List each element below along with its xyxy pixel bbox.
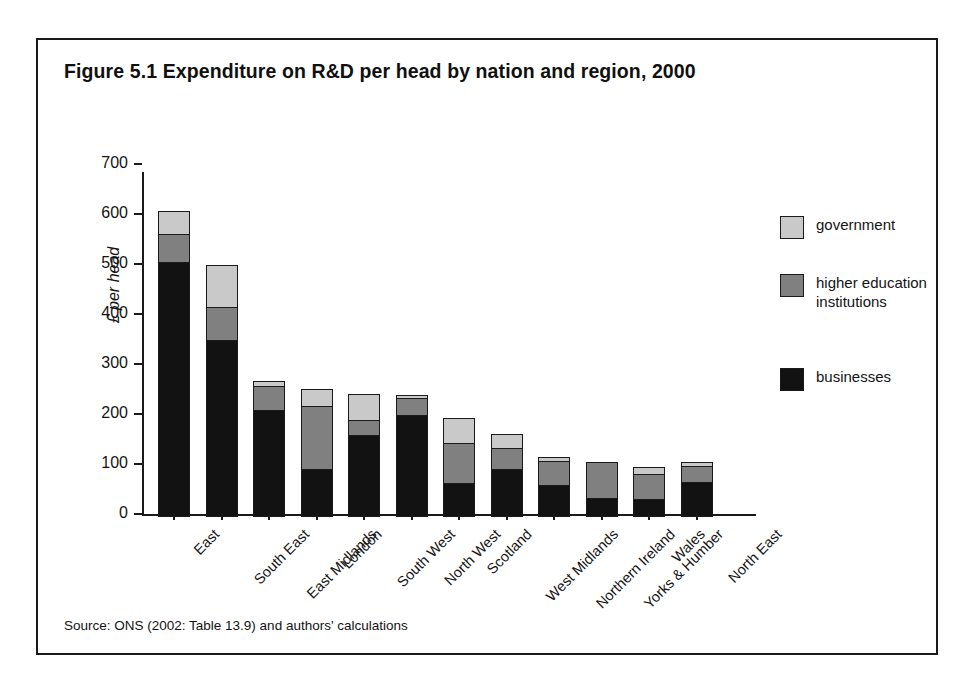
bar-segment-hei[interactable] (633, 474, 665, 500)
legend-swatch-icon (780, 216, 804, 239)
x-axis-label-north-east: North East (725, 526, 785, 586)
y-tick-mark (134, 163, 142, 165)
bar-stack[interactable] (586, 462, 618, 517)
y-tick-mark (134, 513, 142, 515)
bar-segment-hei[interactable] (538, 461, 570, 486)
bar-segment-hei[interactable] (586, 462, 618, 500)
bar-segment-gov[interactable] (158, 211, 190, 235)
bar-segment-hei[interactable] (396, 398, 428, 416)
y-tick-mark (134, 313, 142, 315)
figure-title: Figure 5.1 Expenditure on R&D per head b… (64, 60, 904, 83)
x-tick-mark (506, 514, 508, 520)
bar-segment-hei[interactable] (348, 420, 380, 436)
y-tick-mark (134, 263, 142, 265)
x-tick-mark (173, 514, 175, 520)
legend-label: government (816, 215, 936, 234)
x-axis-label-north-west: North West (441, 526, 503, 588)
x-axis-label-east: East (190, 526, 222, 558)
y-tick-label: 100 (82, 455, 128, 471)
bar-stack[interactable] (253, 381, 285, 516)
bar-segment-bus[interactable] (681, 482, 713, 517)
x-axis-label-yorks-humber: Yorks & Humber (640, 526, 726, 612)
bar-segment-bus[interactable] (253, 410, 285, 517)
y-tick-mark (134, 213, 142, 215)
bar-segment-gov[interactable] (348, 394, 380, 422)
bar-segment-hei[interactable] (301, 406, 333, 471)
figure-page: Figure 5.1 Expenditure on R&D per head b… (0, 0, 975, 695)
x-tick-mark (363, 514, 365, 520)
bar-series-group (144, 172, 756, 516)
bar-segment-hei[interactable] (158, 234, 190, 263)
bar-segment-hei[interactable] (253, 386, 285, 411)
x-axis-label-northern-ireland: Northern Ireland (593, 526, 678, 611)
bar-stack[interactable] (443, 418, 475, 517)
bar-stack[interactable] (491, 434, 523, 517)
figure-source: Source: ONS (2002: Table 13.9) and autho… (64, 618, 904, 633)
bar-segment-bus[interactable] (301, 469, 333, 517)
x-tick-mark (411, 514, 413, 520)
bar-segment-bus[interactable] (538, 485, 570, 518)
y-tick-mark (134, 363, 142, 365)
bar-segment-bus[interactable] (206, 340, 238, 518)
legend-swatch-icon (780, 274, 804, 297)
x-tick-mark (221, 514, 223, 520)
bar-stack[interactable] (301, 389, 333, 516)
figure-frame: Figure 5.1 Expenditure on R&D per head b… (36, 38, 938, 655)
x-tick-mark (601, 514, 603, 520)
bar-segment-gov[interactable] (206, 265, 238, 308)
bar-segment-hei[interactable] (443, 443, 475, 485)
x-axis-label-south-east: South East (250, 526, 311, 587)
bar-stack[interactable] (681, 462, 713, 517)
x-tick-mark (316, 514, 318, 520)
x-axis-label-london: London (339, 526, 385, 572)
bar-segment-bus[interactable] (348, 435, 380, 518)
y-tick-mark (134, 463, 142, 465)
bar-segment-gov[interactable] (443, 418, 475, 444)
bar-stack[interactable] (633, 467, 665, 517)
bar-segment-gov[interactable] (301, 389, 333, 407)
y-tick-label: 700 (82, 155, 128, 171)
x-axis-label-wales: Wales (669, 526, 708, 565)
x-tick-mark (458, 514, 460, 520)
x-tick-mark (648, 514, 650, 520)
legend-label: higher education institutions (816, 273, 936, 311)
bar-segment-bus[interactable] (158, 262, 190, 517)
bar-stack[interactable] (158, 211, 190, 516)
x-axis-label-east-midlands: East Midlands (304, 526, 380, 602)
bar-stack[interactable] (206, 265, 238, 516)
y-axis-label: £ per head (105, 205, 123, 365)
x-axis-label-south-west: South West (394, 526, 458, 590)
legend-swatch-icon (780, 368, 804, 391)
x-tick-mark (553, 514, 555, 520)
bar-segment-hei[interactable] (491, 448, 523, 471)
x-tick-mark (696, 514, 698, 520)
bar-segment-bus[interactable] (491, 469, 523, 517)
bar-segment-bus[interactable] (396, 415, 428, 518)
y-tick-label: 200 (82, 405, 128, 421)
bar-stack[interactable] (538, 457, 570, 517)
bar-stack[interactable] (396, 395, 428, 517)
legend-label: businesses (816, 367, 936, 386)
bar-segment-bus[interactable] (443, 483, 475, 517)
y-tick-mark (134, 413, 142, 415)
x-axis-label-west-midlands: West Midlands (542, 526, 620, 604)
bar-stack[interactable] (348, 394, 380, 517)
x-tick-mark (268, 514, 270, 520)
x-axis-label-scotland: Scotland (484, 526, 535, 577)
bar-segment-gov[interactable] (491, 434, 523, 449)
bar-segment-hei[interactable] (681, 466, 713, 484)
y-tick-label: 0 (82, 505, 128, 521)
bar-segment-hei[interactable] (206, 307, 238, 341)
